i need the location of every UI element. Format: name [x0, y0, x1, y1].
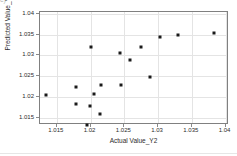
data-point	[45, 93, 48, 96]
y-tick-label: 1.02	[22, 92, 34, 99]
plot-area	[39, 11, 228, 124]
y-axis-tick-marks	[39, 11, 43, 124]
y-tick-mark	[36, 96, 39, 97]
gridline-horizontal	[40, 14, 227, 15]
gridline-horizontal	[40, 97, 227, 98]
y-tick-mark	[36, 75, 39, 76]
y-tick-label: 1.04	[22, 10, 34, 17]
data-point	[74, 86, 77, 89]
gridline-horizontal	[40, 76, 227, 77]
data-point	[149, 75, 152, 78]
y-tick-mark	[36, 117, 39, 118]
data-point	[74, 103, 77, 106]
scatter-plot-figure: c) 1.0151.021.0251.031.0351.04 1.0151.02…	[0, 0, 237, 156]
data-point	[120, 84, 123, 87]
gridline-horizontal	[40, 35, 227, 36]
x-axis-tick-marks	[39, 124, 228, 128]
x-tick-label: 1.03	[151, 127, 163, 134]
y-tick-label: 1.015	[19, 113, 34, 120]
data-point	[90, 46, 93, 49]
data-point	[93, 93, 96, 96]
y-tick-label: 1.025	[19, 72, 34, 79]
x-tick-label: 1.015	[48, 127, 63, 134]
data-point	[140, 45, 143, 48]
x-tick-label: 1.035	[183, 127, 198, 134]
data-point	[128, 59, 131, 62]
data-point	[99, 112, 102, 115]
x-tick-label: 1.04	[219, 127, 231, 134]
data-point	[119, 51, 122, 54]
y-tick-label: 1.035	[19, 30, 34, 37]
y-axis-title: Predicted Value_Y2	[4, 0, 12, 72]
gridline-vertical	[57, 12, 58, 123]
gridline-vertical	[158, 12, 159, 123]
y-tick-mark	[36, 34, 39, 35]
gridline-horizontal	[40, 118, 227, 119]
panel-divider	[0, 153, 237, 154]
y-tick-mark	[36, 54, 39, 55]
data-point	[176, 33, 179, 36]
data-point	[213, 32, 216, 35]
x-tick-label: 1.025	[116, 127, 131, 134]
data-point	[88, 104, 91, 107]
gridline-vertical	[124, 12, 125, 123]
gridline-horizontal	[40, 55, 227, 56]
data-point	[100, 84, 103, 87]
x-axis-title: Actual Value_Y2	[39, 137, 228, 145]
gridline-vertical	[192, 12, 193, 123]
x-tick-label: 1.02	[84, 127, 96, 134]
y-tick-label: 1.03	[22, 51, 34, 58]
data-point	[159, 36, 162, 39]
y-tick-mark	[36, 13, 39, 14]
gridline-vertical	[226, 12, 227, 123]
